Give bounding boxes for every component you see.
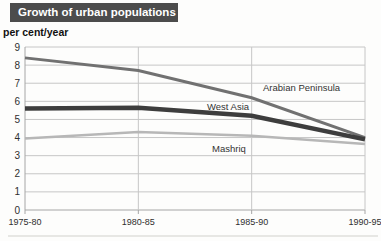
x-tick-label: 1990-95 — [348, 217, 381, 227]
y-tick-label: 0 — [14, 205, 20, 216]
y-tick-label: 6 — [14, 96, 20, 107]
series-line-arabian-peninsula — [25, 58, 365, 138]
chart-container: Growth of urban populations per cent/yea… — [0, 0, 381, 241]
y-tick-label: 7 — [14, 78, 20, 89]
chart-svg: 01234567891975-801980-851985-901990-95Ar… — [0, 0, 381, 241]
y-tick-label: 5 — [14, 114, 20, 125]
series-label-west-asia: West Asia — [207, 101, 250, 112]
x-tick-label: 1985-90 — [235, 217, 268, 227]
series-label-mashriq: Mashriq — [212, 143, 246, 154]
series-label-arabian-peninsula: Arabian Peninsula — [263, 82, 341, 93]
y-tick-label: 8 — [14, 60, 20, 71]
y-tick-label: 2 — [14, 168, 20, 179]
y-tick-label: 1 — [14, 186, 20, 197]
y-tick-label: 3 — [14, 150, 20, 161]
y-tick-label: 4 — [14, 132, 20, 143]
x-tick-label: 1980-85 — [122, 217, 155, 227]
x-tick-label: 1975-80 — [8, 217, 41, 227]
y-tick-label: 9 — [14, 42, 20, 53]
